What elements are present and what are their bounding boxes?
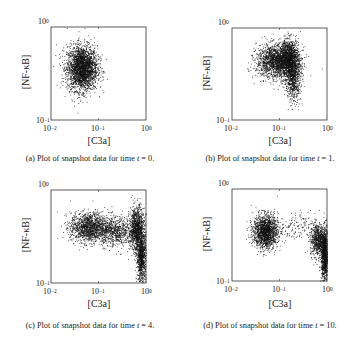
xtick-mid: 10−1	[91, 288, 105, 296]
scatter-points	[246, 196, 328, 282]
caption-c: (c) Plot of snapshot data for time t = 4…	[26, 321, 155, 330]
xtick-right: 100	[322, 125, 333, 133]
xtick-right: 100	[141, 288, 152, 296]
scatter-points	[57, 195, 147, 283]
ytick-top: 100	[38, 181, 49, 189]
xtick-left: 10−2	[43, 125, 57, 133]
x-axis-label: [C3a]	[88, 298, 111, 309]
xtick-left: 10−2	[43, 288, 57, 296]
ytick-top: 100	[218, 180, 229, 188]
ytick-top: 100	[218, 19, 229, 27]
panel-a: 100 10−1 10−2 10−1 100 [C3a] [NF-κB] (a)…	[0, 0, 179, 170]
panel-b: 100 10−1 10−2 10−1 100 [C3a] [NF-κB] (b)…	[179, 0, 358, 170]
caption-a: (a) Plot of snapshot data for time t = 0…	[26, 154, 155, 163]
x-axis-label: [C3a]	[269, 135, 292, 146]
y-axis-label: [NF-κB]	[20, 218, 31, 252]
scatter-plot-c	[0, 170, 179, 340]
panel-c: 100 10−1 10−2 10−1 100 [C3a] [NF-κB] (c)…	[0, 170, 179, 340]
caption-d: (d) Plot of snapshot data for time t = 1…	[203, 321, 336, 330]
xtick-right: 100	[141, 125, 152, 133]
xtick-right: 100	[322, 286, 333, 294]
caption-b: (b) Plot of snapshot data for time t = 1…	[205, 154, 334, 163]
scatter-points	[247, 31, 322, 110]
xtick-left: 10−2	[224, 286, 238, 294]
xtick-left: 10−2	[224, 125, 238, 133]
ytick-top: 100	[38, 18, 49, 26]
xtick-mid: 10−1	[272, 125, 286, 133]
scatter-plot-d	[179, 170, 358, 340]
x-axis-label: [C3a]	[88, 135, 111, 146]
y-axis-label: [NF-κB]	[201, 217, 212, 251]
y-axis-label: [NF-κB]	[201, 56, 212, 90]
scatter-points	[53, 28, 107, 114]
xtick-mid: 10−1	[91, 125, 105, 133]
x-axis-label: [C3a]	[269, 298, 292, 309]
y-axis-label: [NF-κB]	[20, 55, 31, 89]
panel-d: 100 10−1 10−2 10−1 100 [C3a] [NF-κB] (d)…	[179, 170, 358, 340]
xtick-mid: 10−1	[272, 286, 286, 294]
